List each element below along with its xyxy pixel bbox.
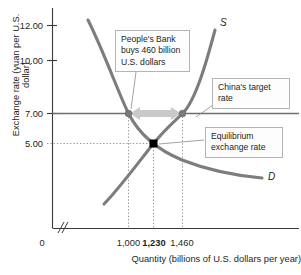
- equilibrium-point-marker: [150, 140, 158, 148]
- intervention-gap-arrow: [130, 107, 181, 120]
- x-tick-label-1230: 1,230: [142, 238, 165, 248]
- supply-curve-label: S: [220, 17, 227, 28]
- annotation-equilibrium-exchange-rate: Equilibrium exchange rate: [205, 127, 283, 158]
- leader-china-target: [196, 105, 213, 117]
- demand-curve-label: D: [268, 171, 275, 182]
- origin-label: 0: [39, 238, 44, 248]
- supply-at-target-marker: [179, 110, 186, 117]
- x-axis-title: Quantity (billions of U.S. dollars per y…: [60, 254, 301, 264]
- leader-peoples-bank: [131, 72, 136, 109]
- x-tick-label-1460: 1,460: [170, 238, 193, 248]
- annotation-peoples-bank-purchase: People's Bank buys 460 billion U.S. doll…: [115, 30, 190, 72]
- y-axis-title: Exchange rate (yuan per U.S. dollar): [11, 0, 31, 150]
- exchange-rate-figure: 12.00 10.00 7.00 5.00 1,000 1,230 1,460 …: [0, 0, 301, 275]
- annotation-china-target-rate: China's target rate: [212, 78, 290, 109]
- leader-equilibrium: [159, 140, 204, 144]
- x-tick-label-1000: 1,000: [117, 238, 140, 248]
- demand-at-target-marker: [125, 110, 132, 117]
